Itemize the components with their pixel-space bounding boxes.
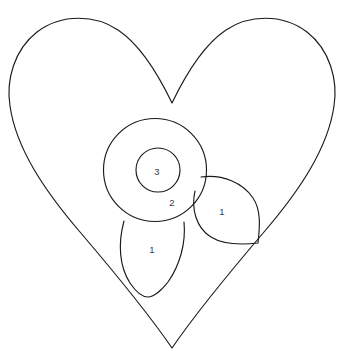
- figure-canvas: 3 2 1 1: [0, 0, 341, 360]
- label-inner-circle: 3: [154, 166, 159, 177]
- label-petal-bottom: 1: [149, 244, 154, 255]
- heart-outline: [9, 18, 335, 348]
- label-petal-right: 1: [219, 206, 224, 217]
- flower-petal-bottom: [120, 221, 184, 297]
- label-outer-ring: 2: [169, 197, 174, 208]
